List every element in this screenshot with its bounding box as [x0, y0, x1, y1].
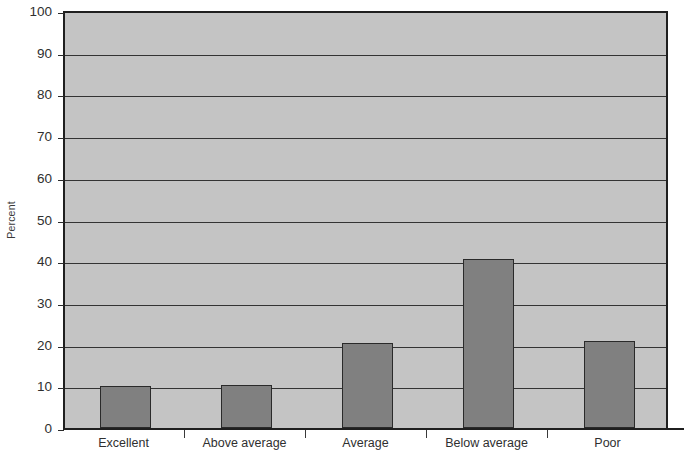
x-axis-tick-mark [184, 430, 185, 438]
bar-chart: Percent 0102030405060708090100 Excellent… [0, 0, 684, 463]
plot-area [63, 11, 668, 428]
y-axis-tick-mark [58, 388, 64, 389]
y-axis-tick-mark [58, 55, 64, 56]
x-axis-category-label: Below average [445, 436, 528, 450]
y-axis-tick-label: 50 [37, 212, 52, 227]
y-axis-tick-mark [58, 305, 64, 306]
y-axis-title-text: Percent [5, 201, 17, 239]
gridline [65, 138, 666, 139]
x-axis-category-label: Above average [202, 436, 286, 450]
gridline [65, 180, 666, 181]
y-axis-tick-label: 20 [37, 337, 52, 352]
y-axis-tick-label: 40 [37, 254, 52, 269]
bar [584, 341, 635, 428]
x-axis-category-label: Excellent [98, 436, 149, 450]
y-axis-tick-label: 0 [44, 421, 52, 436]
y-axis-tick-mark [58, 180, 64, 181]
y-axis-tick-mark [58, 347, 64, 348]
gridline [65, 263, 666, 264]
x-axis-tick-mark [426, 430, 427, 438]
bar [342, 343, 393, 428]
bar [463, 259, 514, 428]
y-axis-tick-mark [58, 96, 64, 97]
y-axis-tick-mark [58, 13, 64, 14]
y-axis-tick-labels: 0102030405060708090100 [22, 0, 56, 463]
y-axis-tick-label: 70 [37, 129, 52, 144]
x-axis-category-label: Poor [594, 436, 620, 450]
y-axis-tick-mark [58, 263, 64, 264]
y-axis-tick-label: 90 [37, 45, 52, 60]
y-axis-tick-label: 80 [37, 87, 52, 102]
y-axis-tick-label: 30 [37, 295, 52, 310]
y-axis-tick-label: 60 [37, 170, 52, 185]
x-axis-line [63, 428, 684, 430]
x-axis-tick-mark [305, 430, 306, 438]
x-axis-category-label: Average [342, 436, 388, 450]
y-axis-tick-label: 100 [29, 4, 52, 19]
bar [100, 386, 151, 428]
x-axis-tick-mark [547, 430, 548, 438]
y-axis-tick-label: 10 [37, 379, 52, 394]
bar [221, 385, 272, 428]
y-axis-tick-mark [58, 138, 64, 139]
y-axis-title: Percent [0, 0, 22, 440]
gridline [65, 96, 666, 97]
y-axis-tick-mark [58, 222, 64, 223]
gridline [65, 305, 666, 306]
gridline [65, 222, 666, 223]
y-axis-tick-mark [58, 430, 64, 431]
gridline [65, 55, 666, 56]
